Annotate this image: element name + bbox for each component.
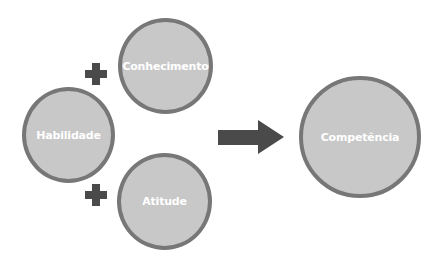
plus-icon-top — [85, 63, 107, 85]
label-conhecimento: Conhecimento — [122, 60, 208, 73]
label-competencia: Competência — [321, 131, 400, 144]
label-atitude: Atitude — [142, 195, 187, 208]
circle-conhecimento: Conhecimento — [118, 18, 213, 114]
plus-icon-bottom — [85, 184, 107, 206]
circle-habilidade: Habilidade — [22, 87, 115, 183]
competence-diagram: Conhecimento Habilidade Atitude Competên… — [0, 0, 440, 261]
arrow-right-icon — [216, 118, 286, 156]
circle-atitude: Atitude — [117, 153, 212, 250]
circle-competencia: Competência — [299, 76, 421, 198]
label-habilidade: Habilidade — [36, 129, 100, 142]
